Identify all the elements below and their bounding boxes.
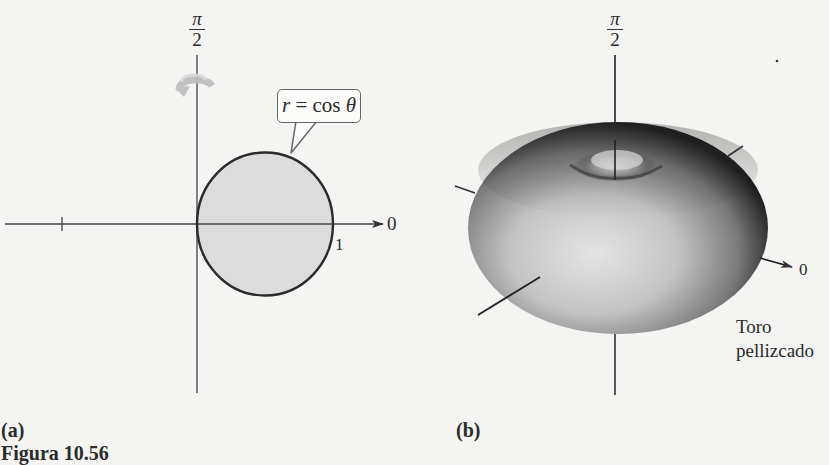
axis-label-zero-b: 0	[799, 260, 808, 280]
axis-label-pi-over-2-a: π 2	[187, 10, 207, 49]
figure-caption: Figura 10.56	[1, 442, 109, 465]
axis-label-pi-over-2-b: π 2	[605, 10, 625, 49]
callout-eq: = cos	[290, 93, 346, 117]
callout-r: r	[282, 93, 290, 117]
radius-label-one: 1	[335, 235, 344, 255]
surface-label-line2: pellizcado	[736, 339, 814, 363]
equation-callout: r = cos θ	[277, 89, 361, 123]
axis-line-left	[455, 186, 475, 193]
polar-axis-arrow	[760, 258, 792, 267]
panel-label-a: (a)	[1, 419, 24, 442]
callout-theta: θ	[346, 93, 356, 117]
surface-label-line1: Toro	[736, 315, 814, 339]
panel-label-b: (b)	[456, 419, 480, 442]
axis-label-zero-a: 0	[387, 213, 397, 235]
surface-label: Toro pellizcado	[736, 315, 814, 363]
rotate-around-axis-icon	[175, 75, 212, 97]
callout-pointer	[291, 121, 317, 153]
speck	[776, 60, 779, 63]
